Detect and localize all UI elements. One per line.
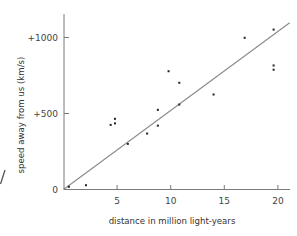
data-point — [273, 69, 275, 71]
data-point — [178, 82, 180, 84]
x-tick-label: 20 — [272, 196, 284, 206]
x-axis-label: distance in million light-years — [109, 216, 236, 226]
data-point — [127, 143, 129, 145]
data-point — [157, 109, 159, 111]
y-tick-label: +1000 — [28, 33, 59, 43]
data-point — [157, 125, 159, 127]
x-tick-label: 10 — [165, 196, 177, 206]
data-point — [110, 124, 112, 126]
data-point — [273, 64, 275, 66]
data-point — [114, 122, 116, 124]
x-ticks: 5101520 — [114, 185, 284, 206]
data-point — [146, 133, 148, 135]
plot-area — [64, 23, 290, 190]
x-tick-label: 5 — [114, 196, 120, 206]
data-point — [168, 70, 170, 72]
y-tick-label: 0 — [52, 185, 58, 195]
data-point — [273, 29, 275, 31]
data-point — [244, 37, 246, 39]
data-point — [178, 104, 180, 106]
fit-line — [64, 23, 290, 190]
y-axis-label: speed away from us (km/s) — [16, 57, 26, 174]
data-point — [213, 94, 215, 96]
data-point — [68, 186, 70, 188]
y-ticks: 0+500+1000 — [28, 33, 69, 195]
scatter-chart: 0+500+1000 5101520 distance in million l… — [0, 0, 297, 236]
y-tick-label: +500 — [33, 109, 58, 119]
cropped-glyph-fragment — [0, 168, 6, 186]
data-point — [85, 184, 87, 186]
data-point — [114, 118, 116, 120]
x-tick-label: 15 — [219, 196, 230, 206]
